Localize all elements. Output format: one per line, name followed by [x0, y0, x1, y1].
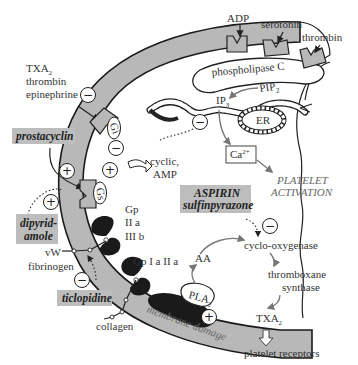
gp2b3a-label-1: Gp	[125, 203, 139, 215]
inhibitory-agonist-epinephrine: epinephrine	[26, 88, 78, 100]
collagen-label: collagen	[96, 320, 134, 332]
aa-label: AA	[195, 252, 211, 264]
fibrinogen-label: fibrinogen	[28, 260, 74, 272]
prostacyclin-plus: +	[62, 164, 72, 178]
pla2-to-aa-arrow	[192, 265, 196, 283]
camp-arrow	[128, 160, 152, 172]
sulfinpyrazone-label: sulfinpyrazone	[182, 199, 253, 212]
txa2-label: TXA2	[256, 312, 283, 327]
ca-to-activation-arrow	[257, 160, 272, 172]
dipyridamole-plus: +	[46, 195, 56, 209]
pla2-plus: +	[204, 310, 214, 324]
inhibitory-agonist-thrombin: thrombin	[26, 75, 67, 87]
dipyridamole-label-2: amole	[24, 230, 53, 242]
platelet-activation-label-1: PLATELET	[276, 174, 329, 186]
aspirin-label: ASPIRIN	[193, 187, 241, 199]
vw-label: vW	[45, 246, 62, 258]
cyclic-amp-label-2: AMP	[153, 168, 177, 180]
ticlopidine-label: ticlopidine	[62, 292, 112, 305]
thrombin-label-top: thrombin	[302, 31, 343, 43]
platelet-diagram: phospholipase C ADP serotonin thrombin P…	[0, 0, 358, 365]
cyclic-amp-label-1: cyclic,	[150, 155, 179, 167]
serotonin-label: serotonin	[261, 18, 302, 30]
er-minus-sign: −	[195, 115, 205, 129]
gp2b3a-label-2: II a	[125, 216, 140, 228]
gp1a2a-label: Gp I a II a	[133, 255, 178, 267]
endoplasmic-reticulum	[150, 102, 312, 132]
pip2-to-ip3-arrow	[230, 88, 258, 98]
prostacyclin-label: prostacyclin	[15, 130, 74, 143]
membrane-plus: +	[105, 163, 115, 177]
gp2b3a-label-3: III b	[125, 230, 145, 242]
dipyridamole-label-1: dipyrid-	[20, 217, 57, 230]
er-label: ER	[256, 114, 271, 126]
inhibitory-agonist-minus: −	[83, 88, 93, 102]
aspirin-dotted	[246, 219, 258, 236]
platelet-activation-label-2: ACTIVATION	[270, 186, 333, 198]
gs-label: Gs	[94, 187, 108, 201]
ticlopidine-minus: −	[77, 273, 87, 287]
ip3-to-ca-arrow	[219, 110, 230, 144]
adp-label: ADP	[227, 12, 249, 24]
aspirin-minus: −	[265, 219, 275, 233]
membrane-minus: −	[111, 141, 121, 155]
thromboxane-synthase-label-2: synthase	[282, 281, 320, 293]
cox-to-txs-arrow	[270, 253, 275, 266]
platelet-receptors-label: platelet receptors	[244, 347, 319, 359]
txs-to-txa2-arrow	[268, 295, 280, 308]
cyclooxygenase-label: cyclo-oxygenase	[244, 239, 318, 251]
thromboxane-synthase-label-1: thromboxane	[268, 268, 326, 280]
camp-to-er-dotted	[160, 128, 195, 140]
